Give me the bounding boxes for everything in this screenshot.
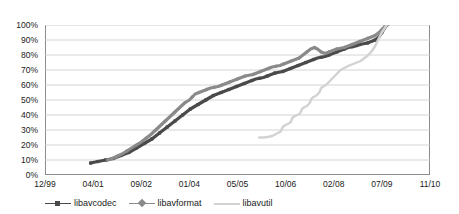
x-axis-labels: 12/9904/0109/0201/0405/0510/0602/0807/09…	[0, 0, 459, 214]
x-axis-tick-label: 10/06	[275, 180, 296, 189]
x-axis-tick-label: 12/99	[34, 180, 55, 189]
legend-swatch-none-icon	[214, 199, 240, 208]
x-axis-tick-label: 07/09	[371, 180, 392, 189]
legend-item-libavcodec[interactable]: libavcodec	[45, 199, 117, 208]
legend-swatch-square-icon	[45, 199, 71, 208]
legend-label: libavutil	[243, 199, 273, 208]
legend-label: libavformat	[158, 199, 202, 208]
x-axis-tick-label: 05/05	[227, 180, 248, 189]
chart-legend: libavcodeclibavformatlibavutil	[45, 195, 435, 211]
legend-swatch-diamond-icon	[129, 199, 155, 208]
chart-container: 0%10%20%30%40%50%60%70%80%90%100% 12/990…	[0, 0, 459, 214]
x-axis-tick-label: 11/10	[420, 180, 441, 189]
x-axis-tick-label: 09/02	[131, 180, 152, 189]
x-axis-tick-label: 04/01	[82, 180, 103, 189]
legend-item-libavformat[interactable]: libavformat	[129, 199, 202, 208]
x-axis-tick-label: 01/04	[179, 180, 200, 189]
legend-item-libavutil[interactable]: libavutil	[214, 199, 273, 208]
legend-label: libavcodec	[74, 199, 117, 208]
x-axis-tick-label: 02/08	[323, 180, 344, 189]
